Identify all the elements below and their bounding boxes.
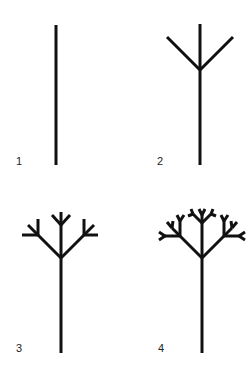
stage-2-label: 2 — [157, 155, 163, 167]
stage-4-figure — [125, 185, 250, 370]
stage-2-panel: 2 — [125, 0, 250, 185]
stage-1-label: 1 — [16, 155, 22, 167]
stage-3-label: 3 — [16, 342, 22, 354]
stage-4-label: 4 — [158, 342, 164, 354]
stage-4-panel: 4 — [125, 185, 250, 370]
stage-3-panel: 3 — [0, 185, 125, 370]
stage-2-figure — [125, 0, 250, 185]
stage-1-panel: 1 — [0, 0, 125, 185]
